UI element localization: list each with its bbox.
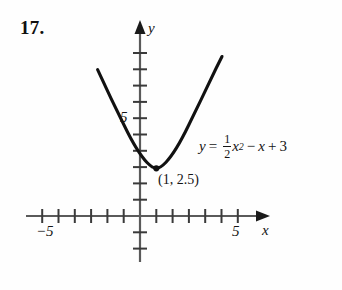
x-axis-label: x: [262, 222, 269, 239]
x-axis-tick-label-negative-5: −5: [36, 223, 54, 240]
y-axis-arrowhead: [135, 20, 146, 34]
figure-canvas: 17. y x 5 5 −5 (1, 2.5) y = 1 2 x 2 − x …: [0, 0, 342, 290]
y-axis-tick-label-5: 5: [120, 109, 128, 126]
equation-annotation: y = 1 2 x 2 − x + 3: [199, 133, 287, 160]
equation-x-squared-base: x: [232, 138, 239, 155]
equation-lhs: y: [199, 138, 206, 155]
vertex-coordinate-label: (1, 2.5): [158, 172, 199, 188]
problem-number: 17.: [20, 17, 45, 39]
x-axis-arrowhead: [256, 211, 270, 222]
vertex-point-marker: [153, 165, 159, 171]
fraction-denominator: 2: [223, 146, 231, 160]
equation-constant-term: 3: [279, 138, 287, 155]
equation-plus-sign: +: [268, 138, 276, 155]
equation-fraction-one-half: 1 2: [223, 133, 231, 160]
equation-equals-sign: =: [209, 138, 217, 155]
y-axis-label: y: [148, 20, 155, 37]
x-axis-tick-label-5: 5: [232, 223, 240, 240]
equation-x-squared-exponent: 2: [239, 141, 244, 152]
equation-minus-sign: −: [247, 138, 255, 155]
equation-linear-term: x: [258, 138, 265, 155]
coordinate-plane-graph: [0, 0, 342, 290]
fraction-numerator: 1: [223, 133, 231, 146]
